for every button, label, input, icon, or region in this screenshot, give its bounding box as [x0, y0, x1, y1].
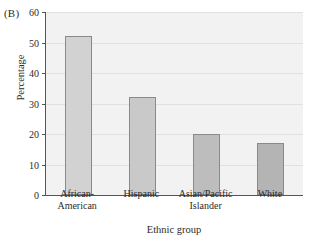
x-tick-label: African-American [45, 188, 109, 211]
x-tick-label: White [238, 188, 302, 200]
y-tick-mark [42, 104, 46, 105]
figure-panel-b: (B) Percentage Ethnic group 010203040506… [0, 0, 319, 242]
x-tick-label: Hispanic [109, 188, 173, 200]
y-tick-label: 50 [17, 37, 39, 48]
bar [129, 97, 156, 195]
x-tick-line: Islander [174, 200, 238, 212]
x-axis-label: Ethnic group [45, 224, 303, 235]
bar [65, 36, 92, 195]
y-tick-label: 60 [17, 7, 39, 18]
y-tick-mark [42, 73, 46, 74]
x-tick-line: White [238, 188, 302, 200]
plot-area [45, 12, 303, 196]
x-tick-line: American [45, 200, 109, 212]
y-tick-mark [42, 43, 46, 44]
plot-inner [46, 12, 303, 195]
x-tick-label: Asian/PacificIslander [174, 188, 238, 211]
y-tick-mark [42, 165, 46, 166]
y-tick-label: 0 [17, 190, 39, 201]
x-tick-line: Asian/Pacific [174, 188, 238, 200]
y-tick-label: 20 [17, 129, 39, 140]
y-tick-label: 10 [17, 159, 39, 170]
gridline [46, 12, 303, 13]
y-tick-mark [42, 134, 46, 135]
x-tick-line: African- [45, 188, 109, 200]
bar [193, 134, 220, 195]
x-tick-line: Hispanic [109, 188, 173, 200]
y-tick-mark [42, 12, 46, 13]
y-tick-label: 30 [17, 98, 39, 109]
y-tick-label: 40 [17, 68, 39, 79]
